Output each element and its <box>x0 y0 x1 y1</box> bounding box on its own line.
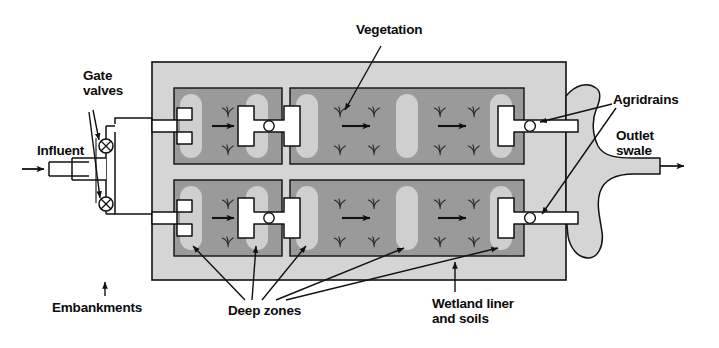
deep-zone <box>396 94 418 158</box>
label-vegetation: Vegetation <box>356 22 422 37</box>
connector-valve <box>264 213 274 223</box>
deep-zone <box>180 186 202 250</box>
label-agridrains: Agridrains <box>613 92 679 107</box>
agridrain-valve <box>525 121 536 132</box>
main-cell-bottom <box>290 180 524 256</box>
label-gate-valves: Gate valves <box>83 68 123 98</box>
connector-valve <box>264 121 274 131</box>
label-influent: Influent <box>37 143 84 158</box>
wetland-diagram-svg <box>0 0 719 348</box>
label-wetland-liner: Wetland liner and soils <box>432 296 514 326</box>
treatment-train-bottom <box>152 180 578 256</box>
leader-gate-valve-top <box>93 110 99 140</box>
gate-valve-bottom <box>99 197 113 211</box>
main-cell-top <box>290 88 524 164</box>
outlet-swale-shape <box>566 85 660 258</box>
wetland-schematic-figure: Vegetation Gate valves Influent Agridrai… <box>0 0 719 348</box>
influent-piping <box>22 118 152 224</box>
agridrain-valve <box>525 213 536 224</box>
deep-zone <box>396 186 418 250</box>
gate-valve-top <box>99 139 113 153</box>
label-deep-zones: Deep zones <box>228 303 301 318</box>
leader-gate-valve-bottom <box>89 112 100 198</box>
treatment-train-top <box>152 88 578 164</box>
label-embankments: Embankments <box>52 300 142 315</box>
deep-zone <box>180 94 202 158</box>
label-outlet-swale: Outlet swale <box>616 128 654 158</box>
